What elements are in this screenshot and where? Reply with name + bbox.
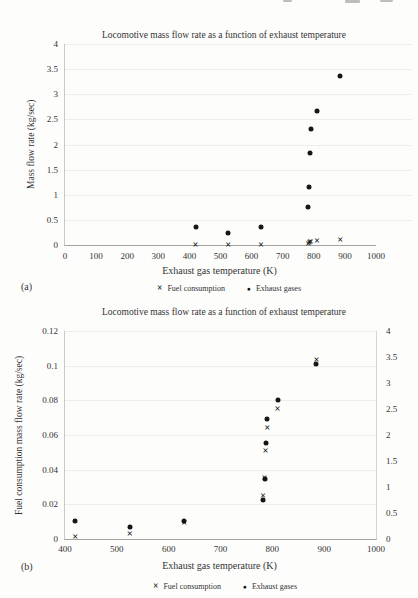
fuel-consumption-marker: ×	[314, 236, 320, 247]
chart-a-y-axis-title: Mass flow rate (kg/sec)	[24, 44, 38, 245]
fuel-consumption-marker: ×	[263, 445, 269, 456]
legend-label: Exhaust gases	[256, 284, 301, 293]
y-axis-tick-label: 3.5	[47, 64, 58, 74]
chart-b-y-axis-title: Fuel consumption mass flow rate (kg/sec)	[12, 331, 26, 539]
chart-b-plot-area: 00.020.040.060.080.10.1200.511.522.533.5…	[64, 331, 377, 540]
circle-marker-icon: ●	[247, 286, 251, 293]
x-marker-icon: ×	[157, 284, 162, 294]
x-axis-tick-label: 300	[152, 251, 166, 261]
gridline	[65, 195, 412, 196]
y-axis-tick-label: 0.12	[42, 326, 58, 336]
x-axis-tick-label: 700	[214, 544, 228, 554]
y-axis-tick-label: 0	[54, 534, 59, 544]
x-axis-tick-label: 200	[120, 251, 134, 261]
exhaust-gases-marker	[306, 205, 311, 210]
cropped-text-fragment	[345, 0, 360, 3]
gridline	[65, 220, 412, 221]
legend-label: Fuel consumption	[167, 284, 225, 293]
circle-marker-icon: ●	[243, 584, 247, 591]
secondary-y-axis-tick-label: 2.5	[386, 404, 397, 414]
x-axis-tick-label: 400	[183, 251, 197, 261]
y-axis-tick-label: 0	[54, 240, 59, 250]
exhaust-gases-marker	[314, 108, 319, 113]
y-axis-tick-label: 2	[54, 140, 59, 150]
y-axis-tick-label: 1	[54, 190, 59, 200]
panel-label-a: (a)	[21, 281, 32, 292]
chart-a-plot-area: 00.511.522.533.5401002003004005006007008…	[64, 44, 376, 246]
x-axis-tick-label: 500	[214, 251, 228, 261]
fuel-consumption-marker: ×	[308, 237, 314, 248]
x-axis-tick-label: 900	[338, 251, 352, 261]
legend-item: ●Exhaust gases	[243, 582, 297, 591]
x-axis-tick-label: 1000	[367, 251, 385, 261]
exhaust-gases-marker	[258, 225, 263, 230]
x-axis-tick-label: 400	[58, 544, 72, 554]
x-axis-tick-label: 500	[110, 544, 124, 554]
gridline	[65, 69, 412, 70]
fuel-consumption-marker: ×	[225, 240, 231, 251]
gridline	[65, 119, 412, 120]
y-axis-tick-label: 1.5	[47, 165, 58, 175]
legend-item: ●Exhaust gases	[247, 284, 301, 293]
x-axis-tick-label: 0	[63, 251, 68, 261]
secondary-y-axis-tick-label: 2	[386, 430, 391, 440]
y-axis-tick-label: 0.08	[42, 395, 58, 405]
exhaust-gases-marker	[338, 73, 343, 78]
fuel-consumption-marker: ×	[127, 529, 133, 540]
x-axis-tick-label: 800	[307, 251, 321, 261]
y-axis-tick-label: 0.04	[42, 465, 58, 475]
gridline	[65, 504, 376, 505]
fuel-consumption-marker: ×	[262, 473, 268, 484]
cropped-text-fragment	[380, 0, 393, 2]
secondary-y-axis-tick-label: 3.5	[386, 352, 397, 362]
exhaust-gases-marker	[307, 184, 312, 189]
gridline	[65, 470, 376, 471]
secondary-y-axis-tick-label: 4	[386, 326, 391, 336]
legend-item: ×Fuel consumption	[157, 284, 225, 294]
cropped-text-fragment	[283, 0, 292, 2]
legend-label: Fuel consumption	[163, 582, 221, 591]
x-axis-tick-label: 600	[162, 544, 176, 554]
gridline	[65, 94, 412, 95]
chart-a-x-axis-title: Exhaust gas temperature (K)	[64, 265, 375, 276]
y-axis-tick-label: 0.02	[42, 499, 58, 509]
secondary-y-axis-tick-label: 1	[386, 482, 391, 492]
chart-b-title: Locomotive mass flow rate as a function …	[66, 307, 382, 317]
fuel-consumption-marker: ×	[181, 518, 187, 529]
y-axis-tick-label: 4	[54, 39, 59, 49]
legend-label: Exhaust gases	[252, 582, 297, 591]
fuel-consumption-marker: ×	[258, 239, 264, 250]
secondary-y-axis-tick-label: 0.5	[386, 508, 397, 518]
secondary-y-axis-tick-label: 0	[386, 534, 391, 544]
legend-item: ×Fuel consumption	[153, 582, 221, 592]
secondary-y-axis-tick-label: 3	[386, 378, 391, 388]
scanned-figure-page: Locomotive mass flow rate as a function …	[0, 0, 418, 598]
y-axis-tick-label: 3	[54, 89, 59, 99]
gridline	[65, 366, 376, 367]
exhaust-gases-marker	[226, 231, 231, 236]
x-axis-tick-label: 600	[245, 251, 259, 261]
gridline	[65, 170, 412, 171]
x-axis-tick-label: 900	[317, 544, 331, 554]
exhaust-gases-marker	[193, 225, 198, 230]
secondary-y-axis-tick-label: 1.5	[386, 456, 397, 466]
x-axis-tick-label: 1000	[367, 544, 385, 554]
fuel-consumption-marker: ×	[260, 490, 266, 501]
chart-a-title: Locomotive mass flow rate as a function …	[66, 30, 382, 40]
exhaust-gases-marker	[307, 150, 312, 155]
gridline	[65, 44, 412, 45]
fuel-consumption-marker: ×	[264, 423, 270, 434]
fuel-consumption-marker: ×	[193, 240, 199, 251]
fuel-consumption-marker: ×	[313, 355, 319, 366]
gridline	[65, 331, 376, 332]
chart-a-legend: ×Fuel consumption●Exhaust gases	[64, 284, 394, 294]
x-marker-icon: ×	[153, 582, 158, 592]
gridline	[65, 145, 412, 146]
fuel-consumption-marker: ×	[337, 235, 343, 246]
x-axis-tick-label: 100	[89, 251, 103, 261]
y-axis-tick-label: 0.1	[47, 361, 58, 371]
fuel-consumption-marker: ×	[72, 532, 78, 543]
chart-b-legend: ×Fuel consumption●Exhaust gases	[60, 582, 390, 592]
y-axis-tick-label: 0.5	[47, 215, 58, 225]
gridline	[65, 435, 376, 436]
